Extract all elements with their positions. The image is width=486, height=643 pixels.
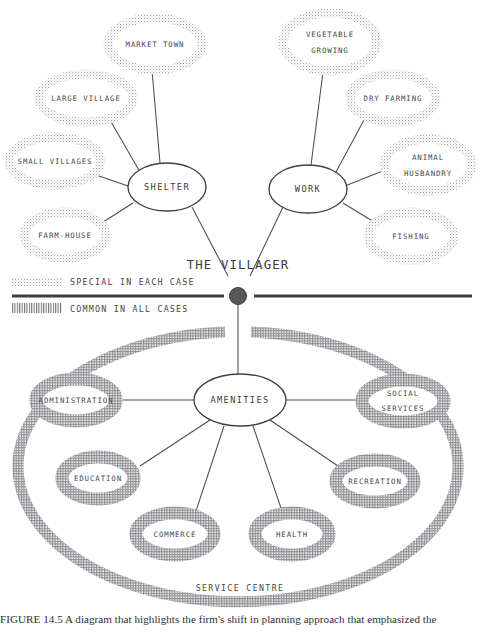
legend-label-common: COMMON IN ALL CASES — [70, 304, 189, 314]
label-small-villages: SMALL VILLAGES — [18, 157, 93, 166]
label-recreation: RECREATION — [348, 477, 402, 486]
label-animal-husbandry-line1: ANIMAL — [412, 153, 444, 162]
center-hub-dot — [230, 288, 247, 305]
label-vegetable-growing-line2: GROWING — [311, 46, 348, 55]
label-social-services-line2: SERVICES — [382, 404, 425, 413]
hub-work-label: WORK — [295, 184, 321, 194]
label-vegetable-growing-line1: VEGETABLE — [306, 30, 354, 39]
satellite-vegetable-growing — [283, 13, 377, 71]
legend-label-special: SPECIAL IN EACH CASE — [70, 277, 195, 287]
label-farm-house: FARM-HOUSE — [38, 231, 92, 240]
label-service-centre: SERVICE CENTRE — [196, 583, 285, 593]
hub-shelter-label: SHELTER — [144, 182, 190, 192]
label-dry-farming: DRY FARMING — [364, 94, 423, 103]
label-large-village: LARGE VILLAGE — [51, 94, 121, 103]
label-health: HEALTH — [276, 530, 308, 539]
label-education: EDUCATION — [74, 474, 122, 483]
legend-swatch-special — [12, 277, 62, 286]
legend-swatch-common — [12, 303, 62, 313]
label-commerce: COMMERCE — [154, 530, 197, 539]
shelter-satellites — [9, 18, 202, 258]
hub-amenities-label: AMENITIES — [210, 395, 269, 405]
label-fishing: FISHING — [392, 232, 429, 241]
label-administration: ADMINISTRATION — [39, 396, 114, 405]
satellite-social-services — [362, 380, 444, 422]
figure-root: MARKET TOWN LARGE VILLAGE SMALL VILLAGES… — [0, 0, 486, 643]
figure-caption: FIGURE 14.5 A diagram that highlights th… — [0, 612, 486, 626]
satellite-animal-husbandry — [384, 139, 472, 191]
label-market-town: MARKET TOWN — [126, 40, 185, 49]
center-label-the-villager: THE VILLAGER — [187, 257, 290, 272]
label-social-services-line1: SOCIAL — [387, 389, 419, 398]
village-diagram: MARKET TOWN LARGE VILLAGE SMALL VILLAGES… — [0, 0, 486, 612]
label-animal-husbandry-line2: HUSBANDRY — [404, 169, 452, 178]
